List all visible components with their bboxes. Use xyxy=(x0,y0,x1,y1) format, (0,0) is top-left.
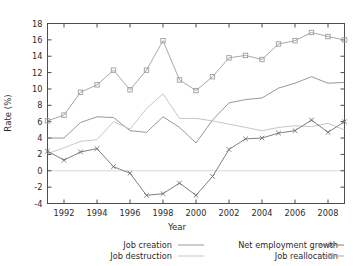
y-tick-label: 2 xyxy=(37,149,42,159)
y-tick-label: 12 xyxy=(32,68,42,78)
y-tick-label: 14 xyxy=(32,51,42,61)
y-tick-label: 8 xyxy=(37,100,42,110)
y-tick-label: 6 xyxy=(37,117,42,127)
x-tick-label: 2002 xyxy=(219,208,240,218)
x-axis-title: Year xyxy=(167,222,187,232)
x-tick-label: 1994 xyxy=(87,208,108,218)
legend-label: Job creation xyxy=(122,240,172,250)
y-tick-label: -2 xyxy=(34,182,42,192)
y-tick-label: 4 xyxy=(37,133,42,143)
x-tick-label: 1998 xyxy=(153,208,174,218)
y-tick-label: 0 xyxy=(37,166,42,176)
y-tick-label: 18 xyxy=(32,19,42,29)
y-tick-label: 16 xyxy=(32,35,42,45)
job-flows-line-chart: 199219941996199820002002200420062008 -4-… xyxy=(0,0,353,266)
y-axis-title: Rate (%) xyxy=(3,94,13,131)
x-tick-label: 2006 xyxy=(285,208,306,218)
y-tick-label: 10 xyxy=(32,84,42,94)
x-tick-label: 2004 xyxy=(252,208,273,218)
x-tick-label: 1996 xyxy=(120,208,141,218)
chart-container: 199219941996199820002002200420062008 -4-… xyxy=(0,0,353,266)
legend-label: Job destruction xyxy=(109,251,172,261)
x-tick-label: 2008 xyxy=(318,208,339,218)
x-tick-label: 2000 xyxy=(186,208,207,218)
x-tick-label: 1992 xyxy=(54,208,75,218)
y-tick-label: -4 xyxy=(34,199,42,209)
